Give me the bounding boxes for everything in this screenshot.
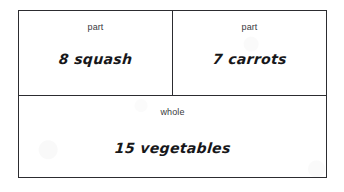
part-right-label: part xyxy=(242,22,258,33)
part-cell-left: part 8 squash xyxy=(19,11,172,95)
part-left-label: part xyxy=(88,22,104,33)
parts-row: part 8 squash part 7 carrots xyxy=(19,11,326,95)
part-part-whole-diagram: part 8 squash part 7 carrots whole 15 ve… xyxy=(18,10,327,178)
whole-value: 15 vegetables xyxy=(114,140,231,156)
whole-cell: whole 15 vegetables xyxy=(19,96,326,179)
part-right-value: 7 carrots xyxy=(212,51,287,67)
whole-label: whole xyxy=(160,107,184,118)
part-cell-right: part 7 carrots xyxy=(172,11,326,95)
whole-row: whole 15 vegetables xyxy=(19,95,326,179)
part-left-value: 8 squash xyxy=(58,51,133,67)
